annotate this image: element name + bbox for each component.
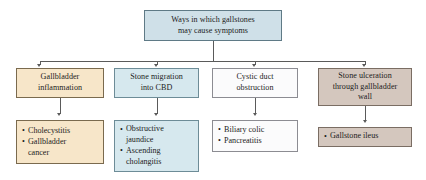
- connector-branch-1: [60, 98, 61, 114]
- list-item-text: Biliary colic: [224, 125, 293, 136]
- arrowhead-branch-4: [362, 64, 366, 67]
- list-item-text: Obstructive jaundice: [126, 124, 194, 146]
- root-cause-box: Ways in which gallstones may cause sympt…: [144, 10, 282, 41]
- cause-line-2: inflammation: [38, 83, 82, 94]
- arrowhead-branch-3: [252, 64, 256, 67]
- list-item-line: Biliary colic: [224, 125, 293, 136]
- connector-branch-4: [365, 106, 366, 121]
- list-item: • Cholecystitis: [22, 126, 99, 137]
- list-item-text: Ascending cholangitis: [126, 146, 194, 168]
- root-stem: [213, 41, 214, 61]
- cause-line-2: into CBD: [141, 83, 173, 94]
- list-item: • Ascending cholangitis: [120, 146, 194, 168]
- connector-branch-2: [157, 98, 158, 114]
- list-item-line: jaundice: [126, 135, 194, 146]
- outcome-box-stone-migration-cbd: • Obstructive jaundice • Ascending chola…: [114, 120, 199, 172]
- arrowhead-outcome-3: [253, 113, 257, 116]
- cause-line-2: through gallbladder: [333, 82, 398, 93]
- cause-line-1: Cystic duct: [236, 72, 273, 83]
- list-item-text: Gallstone ileus: [330, 131, 407, 142]
- distribution-bar: [40, 61, 365, 62]
- list-item-text: Gallbladder cancer: [28, 137, 99, 159]
- list-item-text: Pancreatitis: [224, 136, 293, 147]
- outcome-box-cystic-duct-obstruction: • Biliary colic • Pancreatitis: [212, 120, 298, 152]
- list-item: • Pancreatitis: [218, 136, 293, 147]
- list-item: • Obstructive jaundice: [120, 124, 194, 146]
- list-item-line: Obstructive: [126, 124, 194, 135]
- list-item-text: Cholecystitis: [28, 126, 99, 137]
- cause-line-2: obstruction: [237, 83, 274, 94]
- list-item: • Gallstone ileus: [324, 131, 407, 142]
- root-line-1: Ways in which gallstones: [171, 15, 255, 26]
- arrowhead-branch-1: [37, 64, 41, 67]
- list-item: • Gallbladder cancer: [22, 137, 99, 159]
- arrowhead-outcome-4: [363, 120, 367, 123]
- cause-box-gallbladder-inflammation: Gallbladder inflammation: [16, 68, 104, 98]
- outcome-box-stone-ulceration: • Gallstone ileus: [318, 127, 412, 147]
- outcome-box-gallbladder-inflammation: • Cholecystitis • Gallbladder cancer: [16, 120, 104, 164]
- list-item-line: Gallstone ileus: [330, 131, 407, 142]
- list-item: • Biliary colic: [218, 125, 293, 136]
- list-item-line: cholangitis: [126, 157, 194, 168]
- cause-box-cystic-duct-obstruction: Cystic duct obstruction: [212, 68, 298, 98]
- flowchart-canvas: Ways in which gallstones may cause sympt…: [0, 0, 426, 180]
- arrowhead-outcome-1: [57, 113, 61, 116]
- list-item-line: Gallbladder: [28, 137, 99, 148]
- connector-branch-3: [255, 98, 256, 114]
- list-item-line: cancer: [28, 148, 99, 159]
- root-line-2: may cause symptoms: [178, 26, 248, 37]
- list-item-line: Pancreatitis: [224, 136, 293, 147]
- cause-box-stone-ulceration: Stone ulceration through gallbladder wal…: [318, 68, 412, 106]
- cause-box-stone-migration-cbd: Stone migration into CBD: [114, 68, 199, 98]
- cause-line-1: Gallbladder: [41, 72, 80, 83]
- list-item-line: Cholecystitis: [28, 126, 99, 137]
- cause-line-1: Stone migration: [130, 72, 183, 83]
- list-item-line: Ascending: [126, 146, 194, 157]
- arrowhead-outcome-2: [154, 113, 158, 116]
- cause-line-3: wall: [358, 92, 372, 103]
- cause-line-1: Stone ulceration: [338, 71, 392, 82]
- arrowhead-branch-2: [154, 64, 158, 67]
